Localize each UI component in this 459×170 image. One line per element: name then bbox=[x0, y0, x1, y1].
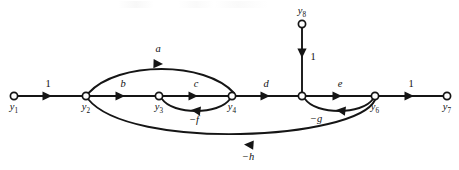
edge-label-e-y3-y4-c: c bbox=[194, 78, 199, 89]
edge-label-e-y6-y5-ng: −g bbox=[310, 113, 322, 124]
signal-flow-graph-figure: 1abc−fd1e−g1−h y1y2y3y4y6y7y8 bbox=[0, 0, 459, 170]
arrowhead-e-y3-y4-c bbox=[189, 91, 199, 100]
edge-label-e-y4-y3-nf: −f bbox=[189, 114, 201, 125]
edge-label-e-y5-y6-e: e bbox=[338, 78, 343, 89]
arrowhead-e-y1-y2 bbox=[43, 91, 53, 100]
edge-label-e-y4-y5-d: d bbox=[263, 78, 269, 89]
arrowhead-e-y4-y5-d bbox=[261, 91, 271, 100]
arrowhead-e-y5-y6-e bbox=[333, 91, 343, 100]
node-y1 bbox=[10, 92, 17, 99]
node-label-y8: y8 bbox=[297, 5, 307, 19]
node-y6 bbox=[371, 92, 378, 99]
edge-label-e-y1-y2: 1 bbox=[45, 78, 50, 89]
arrowhead-e-y8-y5 bbox=[297, 49, 306, 59]
arrowhead-e-y6-y2-nh bbox=[244, 140, 254, 150]
flow-graph-canvas: 1abc−fd1e−g1−h y1y2y3y4y6y7y8 bbox=[0, 0, 459, 170]
node-y4 bbox=[228, 92, 235, 99]
node-label-y3: y3 bbox=[154, 101, 164, 115]
node-label-y2: y2 bbox=[81, 101, 91, 115]
node-y7 bbox=[443, 92, 450, 99]
node-y3 bbox=[155, 92, 162, 99]
edge-label-e-y8-y5: 1 bbox=[310, 51, 315, 62]
node-y8 bbox=[298, 20, 305, 27]
node-label-y6: y6 bbox=[370, 101, 380, 115]
node-label-y7: y7 bbox=[442, 101, 452, 115]
nodes-layer bbox=[10, 20, 450, 99]
edge-label-e-y2-y3-b: b bbox=[120, 78, 125, 89]
node-y5 bbox=[298, 92, 305, 99]
edge-label-e-y6-y2-nh: −h bbox=[242, 151, 254, 162]
node-label-y4: y4 bbox=[227, 101, 237, 115]
edge-label-e-y2-y4-a: a bbox=[155, 43, 160, 54]
node-y2 bbox=[82, 92, 89, 99]
arrowhead-e-y6-y7 bbox=[405, 91, 415, 100]
edge-e-y2-y4-a bbox=[89, 69, 234, 93]
edge-label-e-y6-y7: 1 bbox=[408, 78, 413, 89]
edges-layer bbox=[18, 28, 443, 134]
arrowhead-e-y2-y4-a bbox=[153, 59, 163, 69]
node-label-y1: y1 bbox=[9, 101, 19, 115]
arrowhead-e-y2-y3-b bbox=[116, 91, 126, 100]
arrowhead-e-y6-y5-ng bbox=[335, 105, 346, 115]
